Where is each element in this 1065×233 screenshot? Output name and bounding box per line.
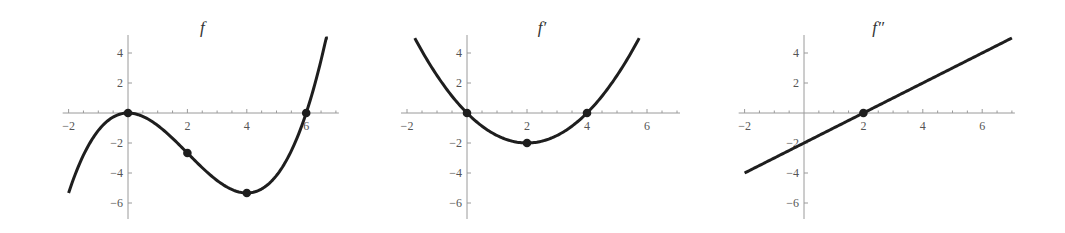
plot-title: f″ [872, 18, 885, 37]
y-tick-label: −4 [110, 166, 123, 180]
x-tick-label: 6 [979, 119, 985, 133]
y-tick-label: −4 [786, 166, 799, 180]
y-tick-label: 4 [117, 46, 123, 60]
marked-point [243, 189, 252, 198]
x-tick-label: 4 [244, 119, 250, 133]
x-tick-label: −2 [738, 119, 751, 133]
y-tick-label: 4 [793, 46, 799, 60]
x-tick-label: 4 [584, 119, 590, 133]
x-tick-label: 2 [184, 119, 190, 133]
derivative-plots-figure: f−2246−6−4−224f′−2246−6−4−224f″−2246−6−4… [0, 0, 1065, 233]
x-tick-label: −2 [401, 119, 414, 133]
x-tick-label: −2 [62, 119, 75, 133]
x-tick-label: 4 [920, 119, 926, 133]
plot-2: f′−2246−6−4−224 [401, 18, 680, 219]
y-tick-label: −6 [786, 196, 799, 210]
marked-point [859, 109, 868, 118]
plot-1: f−2246−6−4−224 [62, 18, 339, 219]
y-tick-label: −6 [449, 196, 462, 210]
marked-point [124, 109, 133, 118]
y-tick-label: −2 [110, 136, 123, 150]
y-tick-label: −4 [449, 166, 462, 180]
marked-point [463, 109, 472, 118]
x-tick-label: 2 [860, 119, 866, 133]
marked-point [183, 149, 192, 158]
function-curve [745, 38, 1012, 173]
marked-point [523, 139, 532, 148]
marked-point [583, 109, 592, 118]
y-tick-label: 2 [793, 76, 799, 90]
x-tick-label: 6 [644, 119, 650, 133]
plot-title: f [200, 18, 207, 37]
marked-point [302, 109, 311, 118]
x-tick-label: 2 [524, 119, 530, 133]
y-tick-label: 2 [456, 76, 462, 90]
plot-title: f′ [538, 18, 547, 37]
plot-3: f″−2246−6−4−224 [738, 18, 1015, 219]
y-tick-label: 4 [456, 46, 462, 60]
function-curve [69, 38, 328, 193]
y-tick-label: −2 [449, 136, 462, 150]
y-tick-label: 2 [117, 76, 123, 90]
y-tick-label: −6 [110, 196, 123, 210]
